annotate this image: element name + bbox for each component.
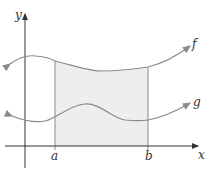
area-between-curves-diagram: y x a b f g xyxy=(0,0,212,176)
shaded-region xyxy=(55,61,148,146)
x-axis-label: x xyxy=(198,148,205,162)
y-axis-label: y xyxy=(14,8,22,22)
curve-f xyxy=(10,46,190,71)
bound-label-a: a xyxy=(51,149,58,163)
bound-label-b: b xyxy=(145,149,153,163)
curve-label-g: g xyxy=(193,95,201,109)
curve-label-f: f xyxy=(191,37,199,51)
